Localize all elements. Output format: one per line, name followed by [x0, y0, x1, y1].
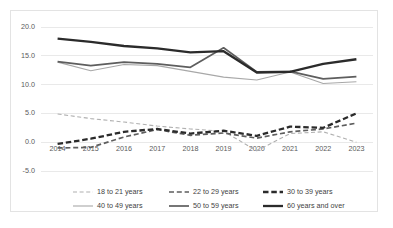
series-lines [58, 39, 357, 151]
y-axis-tick-label: 5.0 [25, 108, 35, 117]
y-axis-tick-labels: 20.015.010.05.00.0-5.0 [21, 22, 35, 175]
x-axis-tick-label: 2023 [348, 144, 364, 153]
y-axis-tick-label: 20.0 [21, 22, 35, 31]
x-axis-tick-label: 2017 [149, 144, 165, 153]
y-axis-tick-label: 10.0 [21, 80, 35, 89]
x-axis-tick-label: 2021 [282, 144, 298, 153]
series-line-40-to-49-years [58, 62, 357, 83]
legend-label[interactable]: 50 to 59 years [193, 201, 239, 210]
x-axis-tick-label: 2018 [182, 144, 198, 153]
legend-label[interactable]: 40 to 49 years [97, 201, 143, 210]
x-axis-tick-label: 2014 [50, 144, 66, 153]
legend-label[interactable]: 22 to 29 years [193, 187, 239, 196]
y-axis-tick-label: 15.0 [21, 51, 35, 60]
series-line-30-to-39-years [58, 113, 357, 144]
y-axis-tick-label: -5.0 [23, 166, 35, 175]
x-axis-tick-label: 2019 [216, 144, 232, 153]
y-axis-tick-label: 0.0 [25, 137, 35, 146]
x-axis-tick-label: 2020 [249, 144, 265, 153]
chart-legend: 18 to 21 years22 to 29 years30 to 39 yea… [73, 187, 345, 210]
legend-label[interactable]: 30 to 39 years [287, 187, 333, 196]
line-chart: 20.015.010.05.00.0-5.0 20142015201620172… [11, 11, 379, 213]
legend-label[interactable]: 18 to 21 years [97, 187, 143, 196]
x-axis-tick-label: 2022 [315, 144, 331, 153]
chart-card: 20.015.010.05.00.0-5.0 20142015201620172… [10, 10, 378, 212]
legend-label[interactable]: 60 years and over [287, 201, 345, 210]
x-axis-tick-label: 2016 [116, 144, 132, 153]
